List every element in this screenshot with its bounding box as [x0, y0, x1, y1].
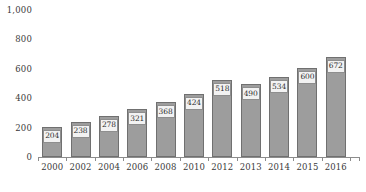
x-tick-label: 2004	[95, 162, 123, 178]
bar-value-label: 424	[185, 97, 203, 110]
x-tick	[38, 157, 39, 161]
bar-value-label: 600	[298, 71, 316, 84]
bar-slot: 204	[38, 8, 66, 157]
bar[interactable]: 238	[71, 122, 91, 157]
x-tick	[322, 157, 323, 161]
y-tick-label: 400	[15, 93, 32, 103]
bar-value-label: 278	[100, 119, 118, 132]
bar-slot: 534	[265, 8, 293, 157]
bar-value-label: 238	[72, 125, 90, 138]
bar[interactable]: 534	[269, 77, 289, 157]
y-tick-label: 800	[15, 34, 32, 44]
bar[interactable]: 204	[42, 127, 62, 157]
y-tick-label: 1,000	[7, 5, 32, 15]
bar-value-label: 321	[128, 112, 146, 125]
y-tick-label: 600	[15, 64, 32, 74]
x-tick	[66, 157, 67, 161]
bar-value-label: 368	[157, 105, 175, 118]
bar-chart: 1,000 800 600 400 200 0 204 238 278	[0, 0, 366, 192]
bar-value-label: 490	[242, 87, 260, 100]
bar[interactable]: 600	[297, 68, 317, 157]
bar-value-label: 534	[270, 80, 288, 93]
bar-value-label: 672	[327, 60, 345, 73]
y-tick-label: 0	[26, 152, 32, 162]
x-tick-label: 2016	[322, 162, 350, 178]
x-tick-label: 2010	[180, 162, 208, 178]
x-tick-label: 2012	[208, 162, 236, 178]
bar-value-label: 518	[213, 83, 231, 96]
x-tick	[208, 157, 209, 161]
bar-slot: 490	[237, 8, 265, 157]
x-tick	[265, 157, 266, 161]
bar-slot: 672	[322, 8, 350, 157]
y-tick-label: 200	[15, 123, 32, 133]
bar[interactable]: 490	[241, 84, 261, 157]
bar[interactable]: 424	[184, 94, 204, 157]
bar-slot: 321	[123, 8, 151, 157]
bar-slot: 368	[151, 8, 179, 157]
bar-series: 204 238 278 321 368	[38, 8, 350, 157]
bar[interactable]: 518	[212, 80, 232, 157]
x-tick-label: 2014	[265, 162, 293, 178]
x-tick-label: 2008	[151, 162, 179, 178]
bar-slot: 424	[180, 8, 208, 157]
bar[interactable]: 278	[99, 116, 119, 157]
bar-slot: 518	[208, 8, 236, 157]
x-tick-label: 2006	[123, 162, 151, 178]
x-tick-label: 2013	[237, 162, 265, 178]
bar-slot: 238	[66, 8, 94, 157]
bar[interactable]: 368	[156, 102, 176, 157]
x-tick	[237, 157, 238, 161]
y-axis: 1,000 800 600 400 200 0	[0, 0, 34, 192]
x-axis-ticks	[38, 157, 360, 161]
x-axis-end-tick	[359, 157, 360, 161]
x-tick-label: 2015	[293, 162, 321, 178]
x-tick-label: 2002	[66, 162, 94, 178]
x-tick	[95, 157, 96, 161]
bar[interactable]: 321	[127, 109, 147, 157]
bar-slot: 278	[95, 8, 123, 157]
x-tick-label: 2000	[38, 162, 66, 178]
bar-slot: 600	[293, 8, 321, 157]
bar[interactable]: 672	[326, 57, 346, 157]
bar-value-label: 204	[43, 130, 61, 143]
x-tick	[180, 157, 181, 161]
x-tick	[123, 157, 124, 161]
plot-area: 204 238 278 321 368	[38, 8, 350, 157]
x-axis: 2000 2002 2004 2006 2008 2010 2012 2013 …	[38, 162, 350, 178]
x-tick	[151, 157, 152, 161]
x-tick	[293, 157, 294, 161]
x-tick	[350, 157, 351, 161]
